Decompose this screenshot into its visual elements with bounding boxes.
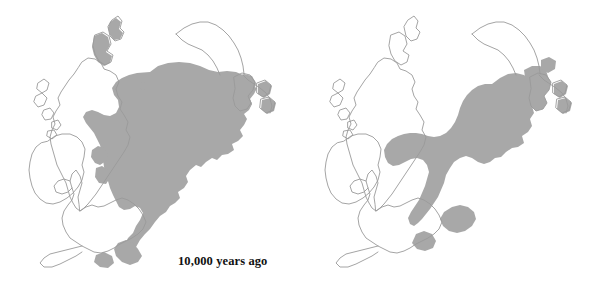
outer-hebrides-s-8000 — [330, 93, 343, 107]
shetland-outline-8000 — [404, 16, 420, 41]
dogger-islet-10000 — [140, 83, 146, 89]
orkney-north-shaded-10000 — [92, 33, 112, 66]
caption-10000-years-ago: 10,000 years ago — [178, 254, 267, 269]
wales-outline-8000 — [350, 179, 368, 194]
ireland-outline-8000 — [325, 134, 381, 204]
map-panel-8000-years-ago: 8,000 years ago — [296, 0, 592, 287]
outer-hebrides-n-10000 — [37, 79, 49, 93]
cornwall-shaded-10000 — [94, 252, 114, 268]
doggerland-main-10000 — [83, 62, 257, 252]
map-panel-10000-years-ago: 10,000 years ago — [0, 0, 296, 287]
shaded-landmass-8000 — [384, 57, 572, 251]
norway-outline-8000 — [472, 22, 540, 74]
map-graphic-10000 — [0, 0, 296, 287]
map-graphic-8000 — [296, 0, 592, 287]
hebrides-isle-8000 — [338, 108, 350, 120]
shaded-landmass-10000 — [83, 18, 276, 268]
outer-hebrides-s-10000 — [34, 93, 47, 107]
norway-south-outline-8000 — [472, 34, 516, 75]
ireland-outline-10000 — [29, 134, 85, 204]
channel-shaded-8000 — [440, 205, 476, 233]
mull-outline-10000 — [52, 120, 61, 130]
wales-outline-10000 — [54, 179, 72, 194]
mull-outline-8000 — [348, 120, 357, 130]
outer-hebrides-n-8000 — [333, 79, 345, 93]
cornwall-outline-8000 — [336, 246, 378, 267]
southern-shaded-8000 — [412, 231, 436, 251]
figure-root: 10,000 years ago — [0, 0, 592, 287]
cornwall-outline-10000 — [40, 246, 82, 267]
hebrides-isle-10000 — [42, 108, 54, 120]
